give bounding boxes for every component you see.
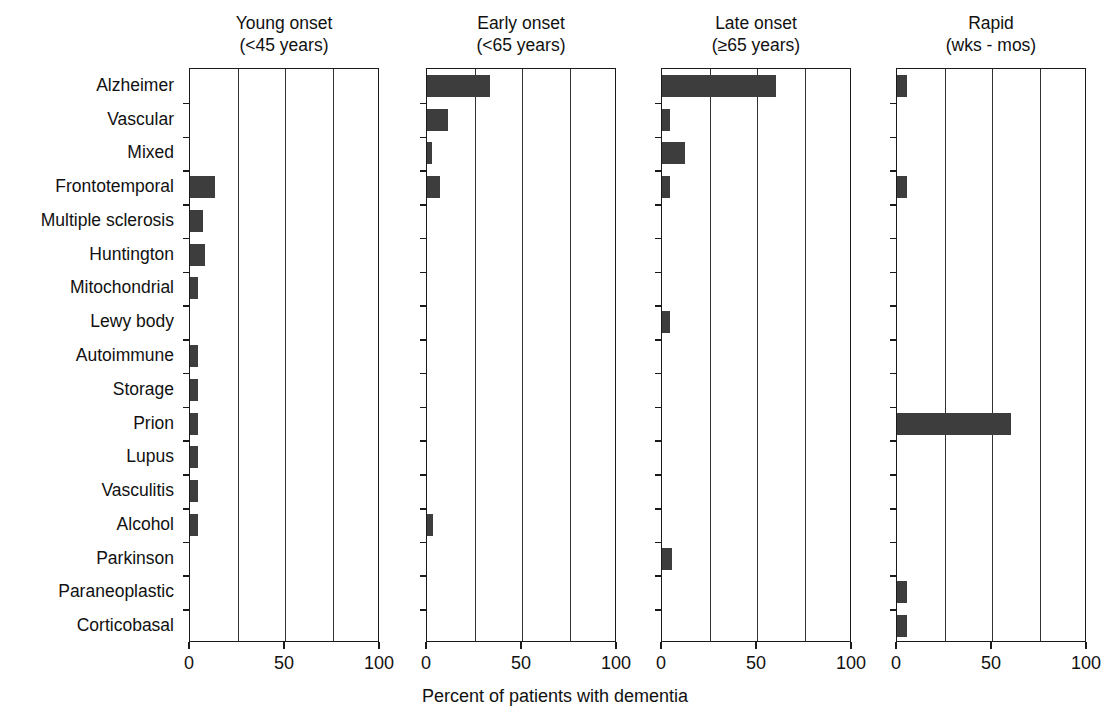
gridline-25 — [945, 69, 946, 641]
category-label-alzheimer: Alzheimer — [96, 75, 174, 95]
gridline-25 — [238, 69, 239, 641]
bar-young-onset-vasculitis — [190, 480, 198, 502]
gridline-50 — [992, 69, 993, 641]
bar-early-onset-alzheimer — [427, 75, 490, 97]
y-tick-2 — [655, 137, 662, 139]
x-tick-late-onset-100 — [850, 642, 852, 649]
panel-title-rapid: Rapid(wks - mos) — [896, 12, 1086, 56]
category-axis-labels: AlzheimerVascularMixedFrontotemporalMult… — [0, 68, 182, 642]
y-tick-8 — [420, 339, 427, 341]
bar-late-onset-alzheimer — [662, 75, 776, 97]
panel-title-line1: Rapid — [968, 13, 1014, 33]
category-label-paraneoplastic: Paraneoplastic — [58, 581, 174, 601]
bar-young-onset-prion — [190, 413, 198, 435]
y-tick-16 — [420, 609, 427, 611]
bar-young-onset-alcohol — [190, 514, 198, 536]
plot-panel-rapid — [896, 68, 1086, 642]
y-tick-13 — [655, 508, 662, 510]
y-tick-1 — [183, 103, 190, 105]
y-tick-5 — [420, 238, 427, 240]
category-label-vascular: Vascular — [107, 109, 174, 129]
panel-title-line1: Late onset — [715, 13, 797, 33]
y-tick-11 — [420, 440, 427, 442]
y-tick-15 — [420, 575, 427, 577]
x-tick-young-onset-50 — [283, 642, 285, 649]
x-tick-rapid-50 — [990, 642, 992, 649]
y-tick-10 — [420, 407, 427, 409]
bar-young-onset-frontotemporal — [190, 176, 215, 198]
y-tick-11 — [183, 440, 190, 442]
x-tick-label-young-onset-0: 0 — [184, 653, 194, 674]
plot-panel-young-onset — [189, 68, 379, 642]
y-tick-5 — [655, 238, 662, 240]
y-tick-14 — [655, 542, 662, 544]
y-tick-3 — [420, 170, 427, 172]
panel-title-line2: (<45 years) — [189, 34, 379, 56]
x-tick-label-young-onset-100: 100 — [364, 653, 394, 674]
category-label-prion: Prion — [133, 413, 174, 433]
y-tick-2 — [890, 137, 897, 139]
y-tick-15 — [890, 575, 897, 577]
y-tick-7 — [183, 305, 190, 307]
panel-title-line1: Early onset — [477, 13, 565, 33]
bar-rapid-prion — [897, 413, 1011, 435]
y-tick-6 — [420, 272, 427, 274]
x-tick-label-rapid-0: 0 — [891, 653, 901, 674]
y-tick-10 — [183, 407, 190, 409]
y-tick-3 — [890, 170, 897, 172]
y-tick-13 — [420, 508, 427, 510]
y-tick-1 — [890, 103, 897, 105]
y-tick-16 — [890, 609, 897, 611]
plot-panel-early-onset — [426, 68, 616, 642]
y-tick-16 — [655, 609, 662, 611]
y-tick-9 — [890, 373, 897, 375]
gridline-75 — [570, 69, 571, 641]
x-tick-label-early-onset-100: 100 — [601, 653, 631, 674]
y-tick-3 — [655, 170, 662, 172]
category-label-huntington: Huntington — [89, 244, 174, 264]
panel-title-line2: (wks - mos) — [896, 34, 1086, 56]
y-tick-6 — [890, 272, 897, 274]
y-tick-12 — [183, 474, 190, 476]
y-tick-12 — [890, 474, 897, 476]
panel-title-line2: (<65 years) — [426, 34, 616, 56]
y-tick-5 — [890, 238, 897, 240]
y-tick-9 — [183, 373, 190, 375]
category-label-multiple-sclerosis: Multiple sclerosis — [41, 210, 174, 230]
category-label-mitochondrial: Mitochondrial — [70, 277, 174, 297]
gridline-75 — [333, 69, 334, 641]
bar-late-onset-vascular — [662, 109, 670, 131]
y-tick-12 — [655, 474, 662, 476]
y-tick-3 — [183, 170, 190, 172]
x-tick-label-rapid-100: 100 — [1071, 653, 1101, 674]
panel-title-young-onset: Young onset(<45 years) — [189, 12, 379, 56]
bar-young-onset-lupus — [190, 446, 198, 468]
y-tick-8 — [655, 339, 662, 341]
category-label-autoimmune: Autoimmune — [76, 345, 174, 365]
y-tick-11 — [890, 440, 897, 442]
panel-title-late-onset: Late onset(≥65 years) — [661, 12, 851, 56]
bar-young-onset-mitochondrial — [190, 277, 198, 299]
bar-early-onset-alcohol — [427, 514, 433, 536]
y-tick-14 — [183, 542, 190, 544]
x-tick-late-onset-50 — [755, 642, 757, 649]
gridline-75 — [805, 69, 806, 641]
panel-title-line1: Young onset — [236, 13, 333, 33]
category-label-lupus: Lupus — [126, 446, 174, 466]
y-tick-4 — [420, 204, 427, 206]
bar-early-onset-frontotemporal — [427, 176, 440, 198]
y-tick-2 — [420, 137, 427, 139]
bar-early-onset-vascular — [427, 109, 448, 131]
y-tick-4 — [655, 204, 662, 206]
y-tick-7 — [890, 305, 897, 307]
category-label-storage: Storage — [113, 379, 174, 399]
bar-early-onset-mixed — [427, 142, 432, 164]
y-tick-1 — [655, 103, 662, 105]
category-label-vasculitis: Vasculitis — [101, 480, 174, 500]
bar-late-onset-mixed — [662, 142, 685, 164]
gridline-50 — [522, 69, 523, 641]
y-tick-1 — [420, 103, 427, 105]
y-tick-15 — [183, 575, 190, 577]
y-tick-16 — [183, 609, 190, 611]
x-tick-label-late-onset-50: 50 — [746, 653, 766, 674]
